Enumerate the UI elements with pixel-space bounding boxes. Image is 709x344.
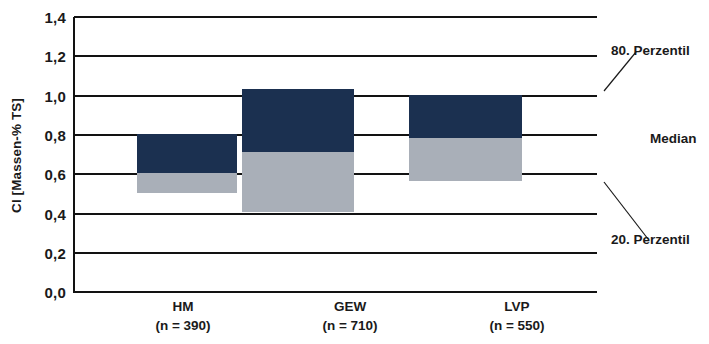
annotation-20-perzentil: 20. Perzentil [611, 232, 690, 247]
y-axis-tick-labels: 1,4 1,2 1,0 0,8 0,6 0,4 0,2 0,0 [22, 0, 66, 344]
y-tick-label-7: 0,2 [22, 245, 66, 262]
gridline-0-4 [74, 213, 597, 215]
bar-lvp[interactable] [409, 95, 522, 181]
x-category-gew-label: GEW [334, 299, 366, 314]
y-tick-label-1: 1,4 [22, 9, 66, 26]
y-tick-label-8: 0,0 [22, 284, 66, 301]
gridline-0-0 [74, 291, 597, 293]
gridline-1-2 [74, 55, 597, 57]
x-category-lvp-label: LVP [504, 299, 529, 314]
bar-gew-lower-segment [242, 152, 354, 213]
bar-gew[interactable] [242, 89, 354, 213]
x-category-lvp: LVP (n = 550) [452, 297, 582, 335]
bar-lvp-upper-segment [409, 95, 522, 138]
y-tick-label-6: 0,4 [22, 206, 66, 223]
bar-hm-upper-segment [137, 134, 237, 173]
bar-hm-lower-segment [137, 173, 237, 193]
percentile-bar-chart: Cl [Massen-% TS] 1,4 1,2 1,0 0,8 0,6 0,4… [0, 0, 709, 344]
y-tick-label-5: 0,6 [22, 166, 66, 183]
x-category-gew: GEW (n = 710) [285, 297, 415, 335]
annotation-median: Median [650, 131, 697, 146]
plot-area [74, 0, 597, 344]
x-category-gew-count: (n = 710) [285, 316, 415, 335]
x-category-lvp-count: (n = 550) [452, 316, 582, 335]
x-category-hm: HM (n = 390) [118, 297, 248, 335]
bar-gew-upper-segment [242, 89, 354, 152]
x-category-hm-label: HM [173, 299, 194, 314]
x-category-hm-count: (n = 390) [118, 316, 248, 335]
bar-hm[interactable] [137, 134, 237, 193]
gridline-1-4 [74, 16, 597, 18]
bar-lvp-lower-segment [409, 138, 522, 181]
annotation-80-perzentil: 80. Perzentil [611, 43, 690, 58]
gridline-0-2 [74, 252, 597, 254]
y-tick-label-2: 1,2 [22, 48, 66, 65]
y-tick-label-4: 0,8 [22, 127, 66, 144]
y-tick-label-3: 1,0 [22, 88, 66, 105]
